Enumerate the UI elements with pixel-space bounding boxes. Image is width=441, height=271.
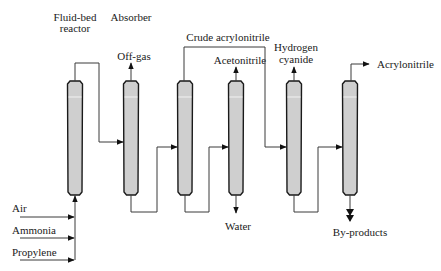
fluid-bed-reactor-column — [68, 81, 83, 195]
acetonitrile-label: Acetonitrile — [214, 54, 267, 66]
by-products-arrow — [346, 195, 354, 222]
hcn-column — [287, 81, 302, 195]
reactor-label-line2: reactor — [60, 22, 91, 34]
air-label: Air — [12, 202, 27, 214]
crude-acrylonitrile-label: Crude acrylonitrile — [186, 31, 270, 43]
absorber-column — [124, 81, 139, 195]
process-flow-diagram: Fluid-bed reactor Absorber Off-gas Crude… — [0, 0, 441, 271]
ammonia-label: Ammonia — [12, 224, 56, 236]
off-gas-label: Off-gas — [117, 50, 150, 62]
hydrogen-cyanide-label-line1: Hydrogen — [274, 41, 318, 53]
product-column — [343, 81, 358, 195]
acrylonitrile-product-pipe — [351, 64, 369, 81]
acetonitrile-column — [229, 81, 244, 195]
by-products-label: By-products — [333, 226, 387, 238]
acrylonitrile-label: Acrylonitrile — [377, 58, 434, 70]
recovery-column — [178, 81, 193, 195]
propylene-label: Propylene — [12, 246, 57, 258]
hydrogen-cyanide-label-line2: cyanide — [279, 53, 313, 65]
water-label: Water — [225, 220, 251, 232]
absorber-label: Absorber — [111, 11, 152, 23]
